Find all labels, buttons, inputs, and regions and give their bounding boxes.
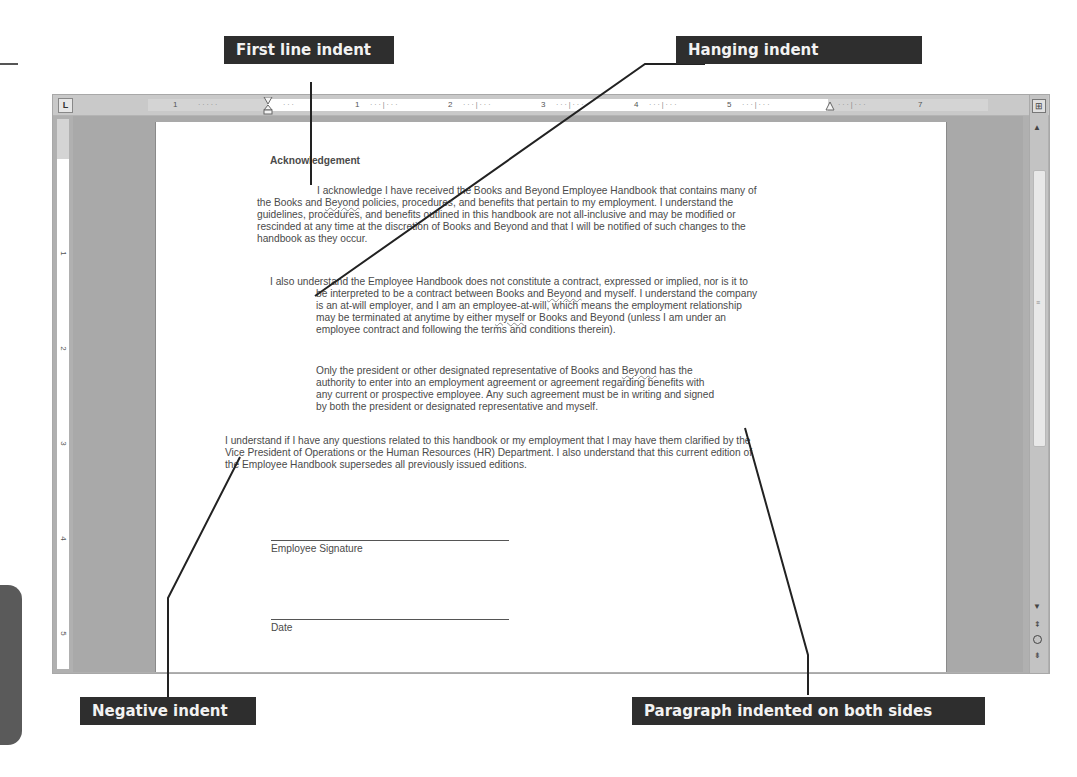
callout-indented-both-sides: Paragraph indented on both sides (632, 697, 985, 725)
para4-line: Vice President of Operations or the Huma… (225, 447, 835, 459)
document-heading: Acknowledgement (270, 155, 360, 167)
vruler-label: 4 (59, 533, 68, 545)
para2-line: I also understand the Employee Handbook … (270, 276, 830, 288)
ruler-tick: · · · | · · · (742, 99, 769, 111)
ruler-tick: · · · | · · · (838, 99, 865, 111)
date-line (271, 619, 509, 620)
paragraph-hanging-indent: I also understand the Employee Handbook … (270, 276, 830, 336)
ruler-tick: · · · · · (198, 99, 217, 111)
para4-line: I understand if I have any questions rel… (225, 435, 835, 447)
ruler-tick: · · · | · · · (370, 99, 397, 111)
para1-line: guidelines, procedures, and benefits out… (257, 209, 837, 221)
ruler-label: 4 (634, 99, 638, 111)
vruler-label: 1 (59, 248, 68, 260)
chapter-tab (0, 585, 22, 745)
ruler-label: 2 (448, 99, 452, 111)
ruler-tick: · · · (283, 99, 294, 111)
first-line-indent-marker-icon[interactable] (263, 97, 273, 115)
vruler-label: 2 (59, 343, 68, 355)
ruler-tick: · · · | · · · (463, 99, 490, 111)
horizontal-ruler-bar: L 1 · · · · · · · · 1 · · · | · · · 2 · … (53, 95, 1049, 116)
callout-negative-indent: Negative indent (80, 697, 256, 725)
para3-line: any current or prospective employee. Any… (316, 389, 786, 401)
scroll-thumb[interactable]: ≡ (1033, 170, 1046, 447)
tab-selector-button[interactable]: L (58, 98, 73, 113)
select-browse-object-icon[interactable] (1033, 635, 1042, 644)
vertical-scrollbar[interactable]: ⊞ ▲ ≡ ▼ ⇞ ⇟ (1029, 95, 1048, 673)
para1-line: handbook as they occur. (257, 233, 837, 245)
signature-line (271, 540, 509, 541)
ruler-tick: · · · | · · · (556, 99, 583, 111)
vruler-label: 5 (59, 628, 68, 640)
view-ruler-button[interactable]: ⊞ (1032, 99, 1046, 113)
callout-hanging-indent: Hanging indent (676, 36, 922, 64)
ruler-label: 3 (541, 99, 545, 111)
callout-first-line-indent: First line indent (224, 36, 394, 64)
para4-line: the Employee Handbook supersedes all pre… (225, 459, 835, 471)
next-page-icon[interactable]: ⇟ (1034, 651, 1041, 660)
signature-label: Employee Signature (271, 543, 363, 555)
para1-line: rescinded at any time at the discretion … (257, 221, 837, 233)
vertical-ruler-text-area (57, 159, 69, 669)
vruler-label: 3 (59, 438, 68, 450)
para2-line: may be terminated at anytime by either m… (270, 312, 830, 324)
decorative-rule (0, 63, 18, 65)
ruler-tick: · · · | · · · (649, 99, 676, 111)
date-label: Date (271, 622, 293, 634)
ruler-label: 1 (173, 99, 177, 111)
paragraph-negative-indent: I understand if I have any questions rel… (225, 435, 835, 471)
para2-line: is an at-will employer, and I am an empl… (270, 300, 830, 312)
scroll-up-arrow-icon[interactable]: ▲ (1033, 123, 1041, 132)
para2-line: employee contract and following the term… (270, 324, 830, 336)
para1-line: the Books and Beyond policies, procedure… (257, 197, 837, 209)
ruler-label: 1 (355, 99, 359, 111)
scroll-down-arrow-icon[interactable]: ▼ (1033, 602, 1041, 611)
previous-page-icon[interactable]: ⇞ (1034, 620, 1041, 629)
para3-line: Only the president or other designated r… (316, 365, 786, 377)
para3-line: by both the president or designated repr… (316, 401, 786, 413)
right-indent-marker-icon[interactable] (825, 101, 835, 111)
para3-line: authority to enter into an employment ag… (316, 377, 786, 389)
para1-line: I acknowledge I have received the Books … (257, 185, 837, 197)
grip-icon: ≡ (1036, 301, 1043, 304)
ruler-label: 5 (727, 99, 731, 111)
ruler-label: 7 (918, 99, 922, 111)
paragraph-first-line-indent: I acknowledge I have received the Books … (257, 185, 837, 245)
para2-line: be interpreted to be a contract between … (270, 288, 830, 300)
vertical-ruler[interactable]: 1 2 3 4 5 (57, 119, 69, 669)
horizontal-ruler[interactable]: 1 · · · · · · · · 1 · · · | · · · 2 · · … (148, 99, 988, 111)
paragraph-indented-both-sides: Only the president or other designated r… (316, 365, 786, 413)
